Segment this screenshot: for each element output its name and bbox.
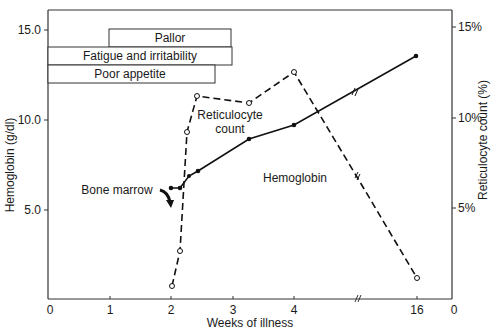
ytick-right-15: 15% — [458, 20, 482, 34]
xtick-16: 16 — [410, 303, 424, 317]
hemoglobin-reticulocyte-chart: 15.0 10.0 5.0 15% 10% 5% 0 1 2 3 4 16 0 … — [0, 0, 497, 333]
label-fatigue: Fatigue and irritability — [83, 49, 197, 63]
ytick-left-10: 10.0 — [18, 113, 42, 127]
x-tick-labels: 0 1 2 3 4 16 0 — [47, 303, 458, 317]
label-poor-appetite: Poor appetite — [94, 67, 166, 81]
label-pallor: Pallor — [155, 31, 186, 45]
reticulocyte-label-line2: count — [215, 122, 245, 136]
bone-marrow-label: Bone marrow — [81, 183, 153, 197]
ytick-left-15: 15.0 — [18, 23, 42, 37]
right-y-axis-title: Reticulocyte count (%) — [476, 80, 490, 200]
x-axis-title: Weeks of illness — [207, 316, 293, 330]
ytick-left-5: 5.0 — [24, 203, 41, 217]
xtick-3: 3 — [230, 303, 237, 317]
hemoglobin-label: Hemoglobin — [263, 171, 327, 185]
xtick-1: 1 — [107, 303, 114, 317]
left-y-tick-labels: 15.0 10.0 5.0 — [18, 23, 42, 217]
ytick-right-5: 5% — [458, 201, 476, 215]
xtick-2: 2 — [168, 303, 175, 317]
xtick-right-0: 0 — [451, 303, 458, 317]
reticulocyte-label-line1: Reticulocyte — [197, 108, 263, 122]
bone-marrow-arrowhead-icon — [166, 200, 174, 208]
reticulocyte-break-mark — [355, 172, 360, 180]
xtick-0: 0 — [47, 303, 54, 317]
left-y-axis-title: Hemoglobin (g/dl) — [3, 118, 17, 213]
xtick-4: 4 — [291, 303, 298, 317]
